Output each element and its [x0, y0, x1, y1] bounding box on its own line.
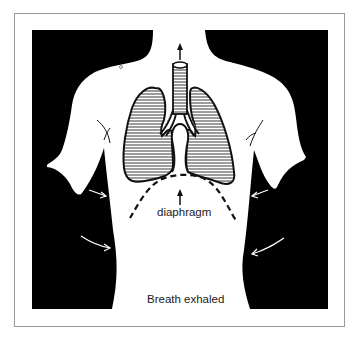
trachea-opening [173, 62, 187, 68]
trachea [173, 64, 187, 114]
mediastinum [172, 124, 188, 172]
diaphragm-label: diaphragm [157, 206, 211, 218]
caption-breath-exhaled: Breath exhaled [147, 293, 224, 305]
breathing-diagram [0, 0, 358, 343]
